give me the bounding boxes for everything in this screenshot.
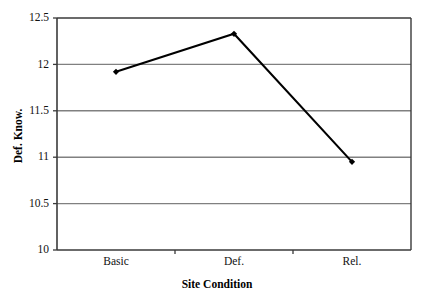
y-tick-label: 10.5 <box>29 197 49 209</box>
y-tick-label: 11.5 <box>29 104 49 116</box>
y-tick-label: 10 <box>38 243 50 255</box>
y-tick-label: 12 <box>38 58 50 70</box>
line-chart: 12.51211.51110.510 BasicDef.Rel. Site Co… <box>0 0 427 294</box>
x-tick-label: Def. <box>224 255 244 267</box>
x-tick-label: Rel. <box>343 255 362 267</box>
y-tick-label: 11 <box>38 150 49 162</box>
x-axis-title: Site Condition <box>182 278 253 290</box>
chart-canvas: 12.51211.51110.510 BasicDef.Rel. Site Co… <box>0 0 427 294</box>
x-tick-label: Basic <box>103 255 129 267</box>
y-axis-title: Def. Know. <box>12 109 24 164</box>
y-tick-label: 12.5 <box>29 11 49 23</box>
